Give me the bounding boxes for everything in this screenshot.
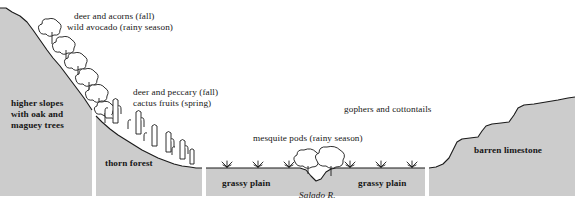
label-higher-slopes: higher slopeswith oak andmaguey trees [11,98,64,131]
label-grassy-plain-right: grassy plain [358,178,406,189]
label-higher-slopes-line2: with oak and [11,109,63,119]
grass-tuft [376,161,386,167]
terrain-profile-svg [0,0,575,221]
cactus [144,125,157,147]
label-salado-river: Salado R. [299,190,336,201]
grass-tuft [222,161,232,167]
grass-tuft [284,161,294,167]
label-grassy-plain-left: grassy plain [222,178,270,189]
label-gophers-and-cottontails: gophers and cottontails [344,104,432,115]
label-deer-and-peccary: deer and peccary (fall) [133,87,218,98]
landscape-profile-diagram: higher slopeswith oak andmaguey trees de… [0,0,575,221]
grass-tuft [253,161,263,167]
label-mesquite-pods: mesquite pods (rainy season) [253,133,363,144]
label-higher-slopes-line1: higher slopes [11,98,63,108]
grass-tuft [407,161,417,167]
label-wild-avocado: wild avocado (rainy season) [67,22,173,33]
label-cactus-fruits: cactus fruits (spring) [133,98,211,109]
label-deer-and-acorns: deer and acorns (fall) [74,11,155,22]
cactus [190,149,194,164]
grass-tuft [345,161,355,167]
label-barren-limestone: barren limestone [474,145,542,156]
cactus [128,111,144,135]
terrain-segment-thorn-forest [96,116,202,196]
label-higher-slopes-line3: maguey trees [11,120,64,130]
label-thorn-forest: thorn forest [105,158,153,169]
